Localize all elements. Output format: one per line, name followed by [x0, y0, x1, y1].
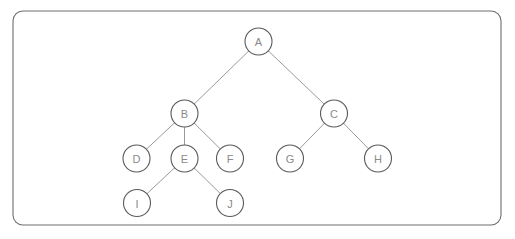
tree-node-label-j: J [227, 198, 233, 210]
tree-node-label-e: E [181, 153, 188, 165]
tree-node-c[interactable]: C [321, 100, 348, 127]
tree-node-i[interactable]: I [124, 190, 151, 217]
tree-node-a[interactable]: A [245, 28, 272, 55]
tree-edge-a-c [268, 51, 324, 104]
tree-node-label-h: H [374, 153, 382, 165]
tree-edge-e-i [147, 168, 175, 194]
tree-node-h[interactable]: H [365, 145, 392, 172]
tree-diagram-canvas: ABCDEFGHIJ [0, 0, 515, 239]
tree-node-d[interactable]: D [123, 145, 150, 172]
tree-node-label-c: C [330, 108, 338, 120]
tree-edge-e-j [194, 168, 220, 194]
tree-edge-c-h [343, 123, 368, 149]
tree-node-label-g: G [286, 153, 295, 165]
tree-node-label-a: A [255, 36, 263, 48]
tree-node-e[interactable]: E [171, 145, 198, 172]
tree-diagram-svg: ABCDEFGHIJ [0, 0, 515, 239]
tree-node-label-i: I [135, 198, 138, 210]
tree-node-g[interactable]: G [277, 145, 304, 172]
tree-node-j[interactable]: J [217, 190, 244, 217]
tree-edge-b-f [194, 123, 220, 149]
tree-nodes-group: ABCDEFGHIJ [123, 28, 392, 217]
tree-edge-b-d [146, 123, 174, 150]
tree-node-label-d: D [133, 153, 141, 165]
tree-node-b[interactable]: B [171, 100, 198, 127]
tree-edge-c-g [299, 123, 324, 149]
tree-node-f[interactable]: F [217, 145, 244, 172]
tree-node-label-b: B [181, 108, 188, 120]
tree-node-label-f: F [227, 153, 234, 165]
tree-edge-a-b [194, 51, 249, 104]
